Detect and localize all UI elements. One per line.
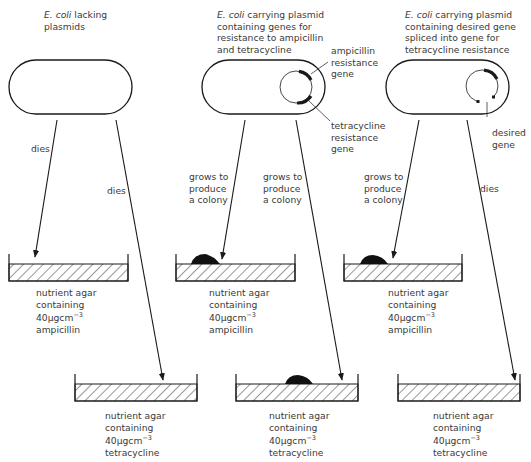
tetracycline-resistance-gene-segment	[297, 96, 311, 103]
label-line: a colony	[189, 194, 228, 205]
concentration-value: 40μgcm	[105, 435, 142, 446]
title-text: containing desired gene	[405, 21, 516, 32]
antibiotic-name: ampicillin	[209, 324, 253, 335]
species-name: E. coli	[44, 9, 71, 20]
concentration-exponent: −3	[73, 311, 83, 319]
agar	[9, 264, 128, 281]
ampicillin-resistance-gene-segment	[484, 70, 497, 79]
desired-gene-insert	[478, 98, 493, 103]
bacterial-colony	[360, 255, 388, 264]
label-line: resistance	[331, 57, 378, 68]
outcome-col2-ampicillin: grows toproducea colony	[189, 171, 228, 206]
concentration-exponent: −3	[470, 434, 480, 442]
title-text: containing genes for	[217, 21, 312, 32]
outcome-col3-ampicillin: grows toproducea colony	[364, 171, 403, 206]
ampicillin-resistance-gene-segment	[299, 71, 311, 80]
label-line: nutrient agar	[269, 410, 329, 421]
antibiotic-name: ampicillin	[388, 324, 432, 335]
arrow-col2-to-tetracycline	[296, 120, 342, 380]
concentration-value: 40μgcm	[36, 312, 73, 323]
label-line: ampicillin	[331, 45, 375, 56]
insert-boundary-marker	[492, 96, 495, 99]
label-line: nutrient agar	[105, 410, 165, 421]
antibiotic-name: tetracycline	[269, 447, 323, 458]
title-text: tetracycline resistance	[405, 44, 509, 55]
agar	[344, 264, 462, 281]
agar	[75, 384, 197, 401]
title-plasmid-amp-tet: E. coli carrying plasmidcontaining genes…	[217, 9, 324, 55]
outcome-col1-tetracycline: dies	[107, 185, 126, 197]
title-text: carrying plasmid	[432, 9, 512, 20]
title-text: carrying plasmid	[244, 9, 324, 20]
label-line: containing	[105, 422, 153, 433]
dish-ampicillin-col3	[344, 254, 462, 281]
title-text: lacking	[71, 9, 107, 20]
cell-plasmid-amp-tet	[202, 60, 325, 114]
plasmid-desired-gene	[466, 70, 498, 117]
agar	[176, 264, 295, 281]
label-line: nutrient agar	[36, 287, 96, 298]
label-line: grows to	[263, 171, 302, 182]
label-line: produce	[364, 183, 401, 194]
label-line: containing	[269, 422, 317, 433]
dish-ampicillin-col2	[176, 254, 295, 281]
concentration-exponent: −3	[425, 311, 435, 319]
dish-ampicillin-col1	[9, 254, 128, 281]
label-line: produce	[263, 183, 300, 194]
label-line: gene	[492, 139, 515, 150]
bacterial-colony	[191, 254, 220, 264]
bacterial-colony	[285, 375, 313, 384]
outcome-col2-tetracycline: grows toproducea colony	[263, 171, 302, 206]
label-line: containing	[388, 299, 436, 310]
label-line: a colony	[364, 194, 403, 205]
concentration-exponent: −3	[142, 434, 152, 442]
label-line: gene	[331, 143, 354, 154]
agar-label-tetracycline-col3: nutrient agarcontaining40μgcm−3tetracycl…	[433, 410, 493, 458]
antibiotic-name: tetracycline	[433, 447, 487, 458]
arrow-col3-to-tetracycline	[467, 120, 515, 380]
ampicillin-gene-pointer	[311, 62, 328, 74]
label-line: nutrient agar	[388, 287, 448, 298]
agar-label-ampicillin-col2: nutrient agarcontaining40μgcm−3ampicilli…	[209, 287, 269, 335]
agar-label-tetracycline-col2: nutrient agarcontaining40μgcm−3tetracycl…	[269, 410, 329, 458]
agar-label-ampicillin-col1: nutrient agarcontaining40μgcm−3ampicilli…	[36, 287, 96, 335]
label-line: nutrient agar	[209, 287, 269, 298]
dish-tetracycline-col1	[75, 374, 197, 401]
label-line: containing	[36, 299, 84, 310]
desired-gene-label: desiredgene	[492, 127, 526, 150]
agar	[236, 384, 358, 401]
outcome-col3-tetracycline: dies	[480, 183, 499, 195]
concentration-value: 40μgcm	[433, 435, 470, 446]
label-line: grows to	[364, 171, 403, 182]
cell-no-plasmid	[9, 60, 132, 114]
arrow-col1-to-ampicillin	[35, 120, 57, 257]
agar-label-tetracycline-col1: nutrient agarcontaining40μgcm−3tetracycl…	[105, 410, 165, 458]
title-text: plasmids	[44, 21, 85, 32]
agar	[398, 384, 520, 401]
species-name: E. coli	[405, 9, 432, 20]
insert-boundary-marker	[477, 100, 480, 103]
ecoli-plasmid-selection-diagram	[0, 0, 531, 462]
tetracycline-resistance-gene-label: tetracyclineresistancegene	[331, 120, 385, 155]
plasmid-amp-tet	[280, 62, 330, 121]
arrow-col1-to-tetracycline	[116, 120, 163, 380]
cell-plasmid-desired-gene	[386, 60, 509, 114]
title-text: and tetracycline	[217, 44, 292, 55]
label-line: nutrient agar	[433, 410, 493, 421]
label-line: gene	[331, 68, 354, 79]
label-line: produce	[189, 183, 226, 194]
concentration-exponent: −3	[306, 434, 316, 442]
concentration-value: 40μgcm	[388, 312, 425, 323]
outcome-col1-ampicillin: dies	[31, 143, 50, 155]
title-no-plasmid: E. coli lackingplasmids	[44, 9, 107, 32]
label-line: containing	[433, 422, 481, 433]
concentration-exponent: −3	[246, 311, 256, 319]
antibiotic-name: ampicillin	[36, 324, 80, 335]
label-line: grows to	[189, 171, 228, 182]
agar-label-ampicillin-col3: nutrient agarcontaining40μgcm−3ampicilli…	[388, 287, 448, 335]
label-line: containing	[209, 299, 257, 310]
concentration-value: 40μgcm	[209, 312, 246, 323]
antibiotic-name: tetracycline	[105, 447, 159, 458]
concentration-value: 40μgcm	[269, 435, 306, 446]
label-line: a colony	[263, 194, 302, 205]
